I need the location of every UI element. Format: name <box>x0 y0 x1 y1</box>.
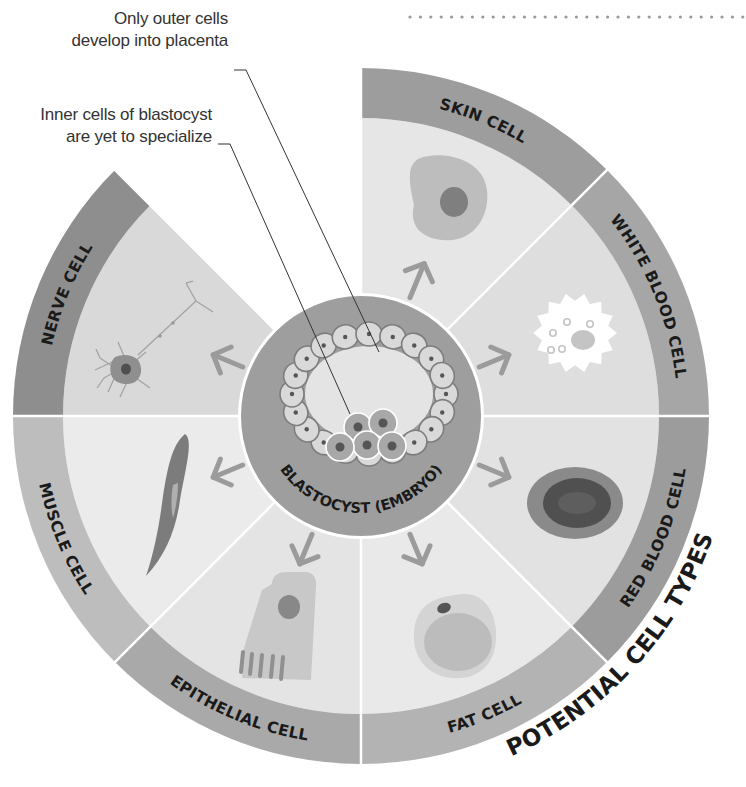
red-blood-cell-icon <box>527 467 623 539</box>
callout-outer-cells: Only outer cells develop into placenta <box>50 8 228 52</box>
callout-line: Inner cells of blastocyst <box>10 104 212 126</box>
callout-line: Only outer cells <box>50 8 228 30</box>
callout-line: are yet to specialize <box>10 126 212 148</box>
dotted-rule <box>408 15 744 18</box>
callout-inner-cells: Inner cells of blastocyst are yet to spe… <box>10 104 212 148</box>
fat-cell-icon <box>414 594 496 678</box>
callout-line: develop into placenta <box>50 30 228 52</box>
